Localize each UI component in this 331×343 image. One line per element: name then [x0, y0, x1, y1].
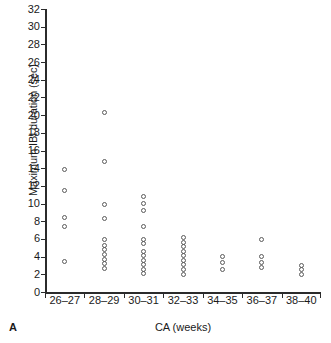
y-tick-mark	[41, 97, 45, 98]
data-point	[141, 208, 146, 213]
y-tick-mark	[41, 186, 45, 187]
data-point	[102, 247, 107, 252]
y-tick-label: 26	[28, 57, 40, 68]
data-point	[62, 224, 67, 229]
data-point	[141, 271, 146, 276]
y-tick-mark	[41, 115, 45, 116]
data-point	[259, 265, 264, 270]
y-tick-mark	[41, 239, 45, 240]
y-tick-label: 28	[28, 39, 40, 50]
y-tick-mark	[41, 80, 45, 81]
y-tick-label: 4	[34, 251, 40, 262]
y-tick-mark	[41, 257, 45, 258]
data-point	[259, 254, 264, 259]
data-point	[141, 241, 146, 246]
y-tick-label: 0	[34, 287, 40, 298]
data-point	[102, 237, 107, 242]
y-tick-label: 22	[28, 92, 40, 103]
data-point	[220, 254, 225, 259]
data-point	[62, 215, 67, 220]
y-tick-label: 10	[28, 198, 40, 209]
y-tick-label: 12	[28, 180, 40, 191]
data-point	[102, 266, 107, 271]
x-axis-tick-labels: 26–2728–2930–3132–3334–3536–3738–40	[45, 294, 321, 310]
y-tick-label: 8	[34, 216, 40, 227]
y-tick-mark	[41, 168, 45, 169]
y-tick-label: 18	[28, 127, 40, 138]
x-tick-label: 32–33	[168, 294, 199, 307]
data-point	[102, 202, 107, 207]
y-tick-label: 32	[28, 4, 40, 15]
data-point	[220, 267, 225, 272]
data-point	[259, 237, 264, 242]
data-point	[220, 260, 225, 265]
data-point	[181, 267, 186, 272]
panel-letter: A	[9, 321, 17, 333]
data-point	[102, 159, 107, 164]
y-tick-label: 16	[28, 145, 40, 156]
y-tick-mark	[41, 221, 45, 222]
data-point	[102, 110, 107, 115]
y-tick-label: 2	[34, 269, 40, 280]
y-tick-mark	[41, 133, 45, 134]
data-point	[62, 259, 67, 264]
y-tick-mark	[41, 9, 45, 10]
x-tick-label: 34–35	[207, 294, 238, 307]
x-tick-label: 38–40	[286, 294, 317, 307]
y-tick-label: 30	[28, 21, 40, 32]
x-tick-label: 36–37	[247, 294, 278, 307]
y-tick-label: 20	[28, 110, 40, 121]
data-point	[141, 194, 146, 199]
data-point	[62, 188, 67, 193]
y-tick-mark	[41, 44, 45, 45]
y-tick-label: 6	[34, 233, 40, 244]
y-tick-label: 14	[28, 163, 40, 174]
data-point	[141, 224, 146, 229]
y-tick-mark	[41, 204, 45, 205]
x-tick-label: 26–27	[49, 294, 80, 307]
y-tick-mark	[41, 151, 45, 152]
x-tick-label: 30–31	[128, 294, 159, 307]
scatter-plot-figure: Maximum IBI duration (sec) 0246810121416…	[0, 0, 331, 343]
y-tick-label: 24	[28, 74, 40, 85]
data-point	[62, 167, 67, 172]
y-tick-mark	[41, 274, 45, 275]
data-point	[181, 235, 186, 240]
data-point	[141, 201, 146, 206]
plot-area	[45, 9, 321, 292]
y-axis-line	[45, 9, 47, 292]
y-axis-tick-labels: 02468101214161820222426283032	[0, 0, 44, 343]
y-tick-mark	[41, 27, 45, 28]
data-point	[299, 272, 304, 277]
y-tick-mark	[41, 62, 45, 63]
data-point	[181, 272, 186, 277]
x-tick-label: 28–29	[89, 294, 120, 307]
x-axis-title: CA (weeks)	[45, 321, 321, 333]
data-point	[102, 216, 107, 221]
